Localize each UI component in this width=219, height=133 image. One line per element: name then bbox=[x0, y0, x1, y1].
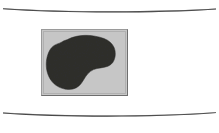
bottom-rule bbox=[0, 108, 219, 122]
kidney-blob-graphic bbox=[42, 30, 128, 96]
figure-box[interactable] bbox=[41, 29, 128, 96]
bottom-rule-graphic bbox=[0, 108, 219, 122]
top-rule bbox=[0, 4, 219, 18]
figure-caption bbox=[0, 97, 219, 107]
scanned-page bbox=[0, 0, 219, 133]
kidney-blob-path bbox=[46, 35, 115, 89]
top-rule-graphic bbox=[0, 4, 219, 18]
